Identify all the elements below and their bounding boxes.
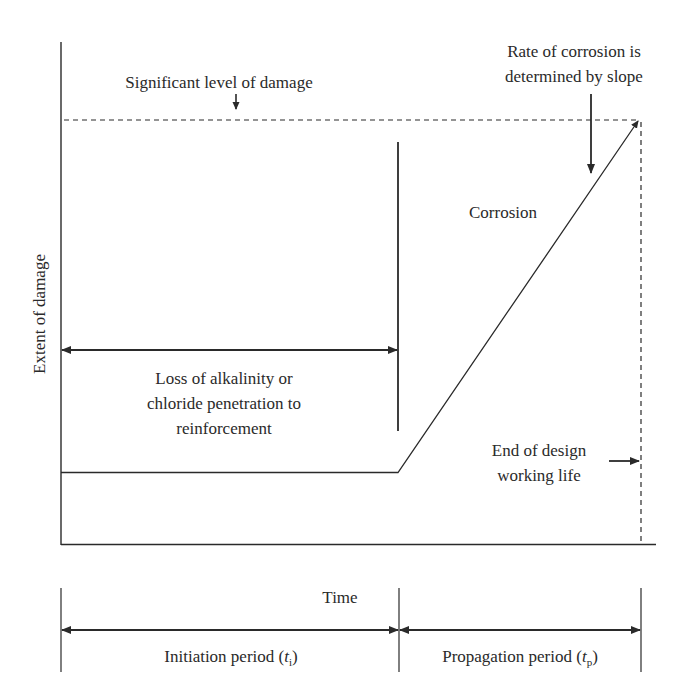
propagation-period-label: Propagation period (tp) xyxy=(442,647,598,668)
initiation-desc-line1: Loss of alkalinity or xyxy=(155,369,293,388)
damage-curve xyxy=(61,121,638,473)
x-axis-label: Time xyxy=(322,588,357,607)
initiation-period-label: Initiation period (ti) xyxy=(164,647,297,668)
end-of-life-line2: working life xyxy=(497,466,581,485)
corrosion-label: Corrosion xyxy=(469,203,538,222)
damage-model-diagram: Significant level of damage Rate of corr… xyxy=(0,0,683,675)
initiation-desc-line2: chloride penetration to xyxy=(147,394,301,413)
threshold-label: Significant level of damage xyxy=(125,73,312,92)
end-of-life-line1: End of design xyxy=(492,441,587,460)
y-axis-label: Extent of damage xyxy=(30,254,49,374)
initiation-desc-line3: reinforcement xyxy=(176,419,272,438)
rate-label-line1: Rate of corrosion is xyxy=(507,42,641,61)
rate-label-line2: determined by slope xyxy=(505,67,643,86)
